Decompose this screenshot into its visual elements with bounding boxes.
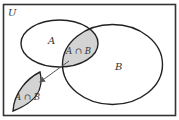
extracted-intersection-label: A ∩ B [14, 92, 40, 102]
set-a-label: A [47, 35, 55, 46]
universe-label: U [8, 7, 17, 18]
venn-diagram: U A B A ∩ B A ∩ B [0, 0, 179, 120]
intersection-label: A ∩ B [65, 46, 91, 56]
set-b-label: B [114, 61, 122, 72]
